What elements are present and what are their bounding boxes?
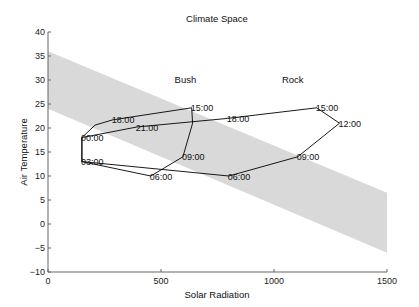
- time-label: 06:00: [150, 172, 173, 182]
- y-tick-label: 25: [35, 99, 45, 109]
- y-tick-label: −10: [30, 267, 45, 277]
- climate-space-chart: −10−50510152025303540 050010001500 00:00…: [0, 0, 419, 307]
- time-label: 00:00: [81, 133, 104, 143]
- climate-space-band: [48, 51, 387, 253]
- y-axis-label: Air Temperature: [18, 118, 29, 185]
- time-label: 15:00: [191, 103, 214, 113]
- x-axis-label: Solar Radiation: [185, 289, 250, 300]
- time-label: 18:00: [227, 114, 250, 124]
- time-label: 15:00: [316, 103, 339, 113]
- time-label: 06:00: [228, 172, 251, 182]
- y-tick-label: 5: [40, 195, 45, 205]
- x-tick-label: 500: [153, 276, 168, 286]
- y-tick-label: 15: [35, 147, 45, 157]
- y-tick-label: 40: [35, 27, 45, 37]
- time-label: 21:00: [136, 123, 159, 133]
- group-label-rock: Rock: [282, 74, 304, 85]
- time-label: 09:00: [297, 152, 320, 162]
- group-label-bush: Bush: [175, 74, 197, 85]
- y-tick-label: −5: [35, 243, 45, 253]
- x-tick-label: 0: [45, 276, 50, 286]
- y-tick-label: 10: [35, 171, 45, 181]
- group-annotations: BushRock: [175, 74, 304, 85]
- time-label: 03:00: [81, 157, 104, 167]
- y-tick-label: 35: [35, 51, 45, 61]
- chart-title: Climate Space: [186, 13, 248, 24]
- time-label: 18:00: [112, 115, 135, 125]
- y-tick-label: 20: [35, 123, 45, 133]
- time-label: 09:00: [182, 152, 205, 162]
- x-tick-label: 1500: [377, 276, 397, 286]
- y-tick-label: 0: [40, 219, 45, 229]
- y-tick-label: 30: [35, 75, 45, 85]
- shaded-band: [48, 51, 387, 253]
- time-label: 12:00: [339, 119, 362, 129]
- x-tick-label: 1000: [264, 276, 284, 286]
